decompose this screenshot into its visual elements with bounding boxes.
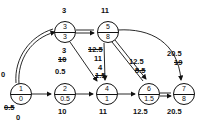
- graph-node-1[interactable]: 1 0: [10, 83, 32, 105]
- label-node1-below: 0: [16, 114, 20, 122]
- node-5-value: 8: [98, 32, 118, 42]
- label-node5-below-old: 12.5: [88, 46, 103, 54]
- label-node7-above-old: 19: [174, 59, 182, 67]
- node-1-value: 0: [11, 94, 31, 104]
- graph-node-6[interactable]: 6 1.5: [138, 83, 160, 105]
- node-6-id: 6: [139, 84, 159, 94]
- label-node3-below: 3: [62, 47, 66, 55]
- label-node4-above-old: 1.5: [95, 72, 105, 80]
- label-node2-below: 10: [58, 108, 66, 116]
- label-node3-below-old: 10: [58, 56, 66, 64]
- node-2-value: 0.5: [55, 94, 75, 104]
- label-node6-above-old: 5.5: [135, 67, 145, 75]
- node-4-id: 4: [97, 84, 117, 94]
- node-6-value: 1.5: [139, 94, 159, 104]
- graph-node-7[interactable]: 7 8: [173, 83, 195, 105]
- graph-node-4[interactable]: 4 1: [96, 83, 118, 105]
- label-node1-below-old: 0.5: [4, 104, 14, 112]
- label-node5-below: 11: [94, 55, 102, 63]
- label-node2-above: 0.5: [55, 68, 65, 76]
- edge-1-to-3: [16, 29, 55, 84]
- edge-6-to-7: [160, 93, 171, 96]
- node-3-id: 3: [55, 22, 75, 32]
- node-4-value: 1: [97, 94, 117, 104]
- network-diagram-canvas: 1 0 2 0.5 3 3 4 1 5 8 6 1.5 7 8 0 0.5 0 …: [0, 0, 201, 127]
- node-7-value: 8: [174, 94, 194, 104]
- edge-3-to-5: [76, 30, 94, 33]
- node-5-id: 5: [98, 22, 118, 32]
- node-1-id: 1: [11, 84, 31, 94]
- graph-node-5[interactable]: 5 8: [97, 21, 119, 43]
- node-3-value: 3: [55, 32, 75, 42]
- label-node5-above: 11: [101, 7, 109, 15]
- label-node6-above: 12.5: [129, 58, 144, 66]
- node-2-id: 2: [55, 84, 75, 94]
- graph-node-2[interactable]: 2 0.5: [54, 83, 76, 105]
- label-node7-above: 20.5: [167, 50, 182, 58]
- graph-node-3[interactable]: 3 3: [54, 21, 76, 43]
- node-7-id: 7: [174, 84, 194, 94]
- label-node6-below: 12.5: [133, 108, 148, 116]
- label-node4-below: 11: [99, 108, 107, 116]
- label-node3-above: 3: [62, 7, 66, 15]
- label-node7-below: 20.5: [167, 108, 182, 116]
- label-node1-left: 0: [1, 71, 5, 79]
